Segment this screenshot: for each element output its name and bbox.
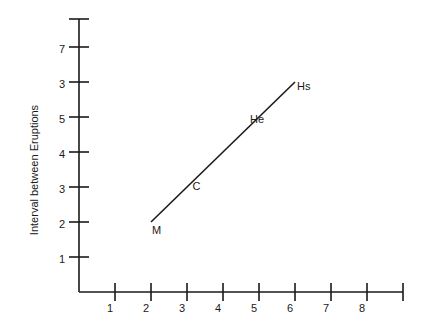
x-tick-label: 3 bbox=[179, 302, 185, 314]
x-tick-label: 2 bbox=[143, 302, 149, 314]
x-tick-label: 4 bbox=[215, 302, 221, 314]
y-tick-label: 5 bbox=[59, 113, 65, 125]
point-label-he: He bbox=[250, 113, 264, 125]
x-tick-label: 1 bbox=[107, 302, 113, 314]
y-tick-label: 1 bbox=[59, 253, 65, 265]
y-tick-label: 4 bbox=[59, 148, 65, 160]
x-ticks: 12345678 bbox=[107, 283, 403, 314]
axes bbox=[79, 19, 403, 292]
y-tick-label: 3 bbox=[59, 183, 65, 195]
point-labels: MCHeHs bbox=[152, 80, 311, 236]
y-axis-title: Interval between Eruptions bbox=[28, 104, 40, 235]
x-tick-label: 8 bbox=[359, 302, 365, 314]
point-label-hs: Hs bbox=[297, 80, 311, 92]
y-tick-label: 2 bbox=[59, 218, 65, 230]
y-tick-label: 7 bbox=[59, 43, 65, 55]
chart: 1234537 12345678 MCHeHs Interval between… bbox=[0, 0, 447, 336]
x-tick-label: 7 bbox=[323, 302, 329, 314]
x-tick-label: 6 bbox=[287, 302, 293, 314]
point-label-m: M bbox=[152, 224, 161, 236]
y-tick-label: 3 bbox=[59, 78, 65, 90]
y-ticks: 1234537 bbox=[59, 19, 89, 265]
series-line bbox=[151, 82, 295, 222]
x-tick-label: 5 bbox=[251, 302, 257, 314]
point-label-c: C bbox=[193, 180, 201, 192]
